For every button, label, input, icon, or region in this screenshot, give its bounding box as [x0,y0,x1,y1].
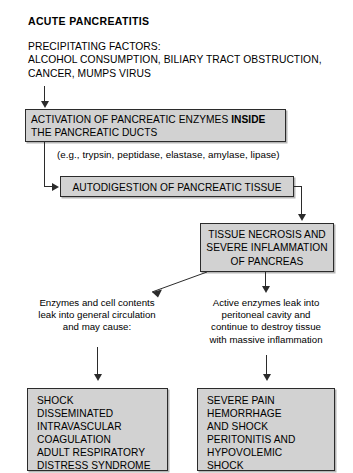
connector-necrosis-to-local-vertical [265,272,266,287]
connector-systemic-to-outcomes [97,347,98,375]
arrowhead-systemic-to-outcomes [94,374,102,381]
arrowhead-necrosis-to-local [262,286,270,293]
systemic-pathway-description: Enzymes and cell contents leak into gene… [22,297,172,334]
pancreatitis-flowchart: ACUTE PANCREATITIS PRECIPITATING FACTORS… [0,0,353,473]
node-systemic-outcomes-label: SHOCK DISSEMINATED INTRAVASCULAR COAGULA… [37,394,151,473]
local-pathway-description: Active enzymes leak into peritoneal cavi… [190,297,342,346]
node-local-outcomes-label: SEVERE PAIN HEMORRHAGE AND SHOCK PERITON… [207,394,295,473]
arrowhead-local-to-outcomes [263,374,271,381]
node-systemic-outcomes: SHOCK DISSEMINATED INTRAVASCULAR COAGULA… [27,388,168,471]
connector-local-to-outcomes [266,355,267,375]
node-local-outcomes: SEVERE PAIN HEMORRHAGE AND SHOCK PERITON… [197,388,335,471]
